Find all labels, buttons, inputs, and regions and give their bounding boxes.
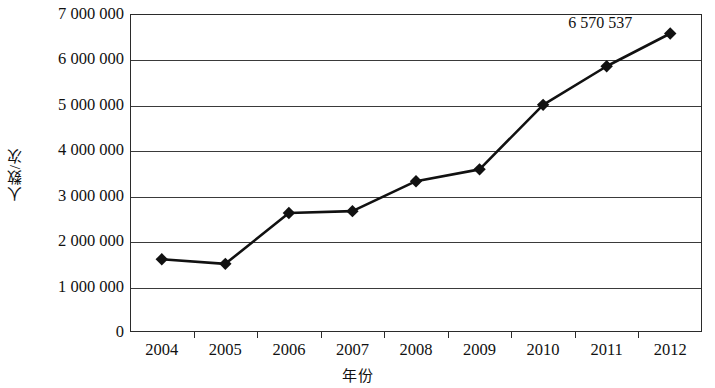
data-point-marker (410, 175, 422, 187)
chart-figure: 人数/次 01 000 0002 000 0003 000 0004 000 0… (0, 0, 715, 388)
x-axis-title: 年份 (0, 364, 715, 385)
data-series-line (0, 0, 715, 388)
data-point-marker (346, 205, 358, 217)
data-point-marker (600, 60, 612, 72)
data-point-marker (156, 253, 168, 265)
series-polyline (162, 34, 670, 264)
data-point-marker (664, 27, 676, 39)
data-label-2012: 6 570 537 (568, 14, 632, 32)
